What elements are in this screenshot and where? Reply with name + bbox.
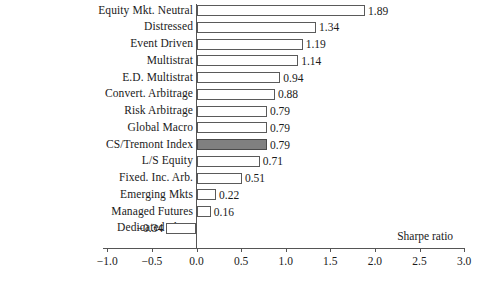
x-tick [420,248,421,252]
x-tick-label: 0.0 [189,255,203,267]
bar [197,39,303,50]
bar-value-label: 0.88 [278,89,298,101]
x-tick-label: −1.0 [97,255,118,267]
bar [197,89,275,100]
bar-value-label: 1.34 [319,22,339,34]
x-tick [375,248,376,252]
bar [197,5,366,16]
x-axis-line [103,248,464,249]
x-tick [464,248,465,252]
bar-value-label: 0.79 [270,123,290,135]
x-tick-label: 2.5 [412,255,426,267]
bar [166,223,196,234]
bar [197,206,211,217]
x-tick-label: 3.0 [457,255,471,267]
x-tick-label: 1.0 [279,255,293,267]
bar [197,72,281,83]
bar [197,22,317,33]
x-tick-label: 2.0 [368,255,382,267]
x-tick [107,248,108,252]
bar [197,156,260,167]
x-tick-label: 0.5 [234,255,248,267]
x-axis-title: Sharpe ratio [397,230,453,242]
bar [197,173,242,184]
x-tick-label: −0.5 [141,255,162,267]
bar-value-label: 1.19 [306,39,326,51]
bar-value-label: 0.94 [283,73,303,85]
bar-value-label: 0.22 [219,190,239,202]
sharpe-ratio-bar-chart: Equity Mkt. NeutralDistressedEvent Drive… [0,0,489,285]
bar [197,55,299,66]
bar-value-label: 0.79 [270,106,290,118]
bar-value-label: 0.79 [270,140,290,152]
bar [197,189,217,200]
bar-value-label: −0.34 [137,223,164,235]
bar-value-label: 0.16 [214,207,234,219]
bar-value-label: 1.14 [301,56,321,68]
bar [197,139,267,150]
x-tick-label: 1.5 [323,255,337,267]
x-tick [241,248,242,252]
bar [197,122,267,133]
plot-area: 1.891.341.191.140.940.880.790.790.790.71… [0,0,489,285]
bar-value-label: 0.51 [245,173,265,185]
x-tick [286,248,287,252]
bar [197,106,267,117]
bar-value-label: 1.89 [368,6,388,18]
x-tick [330,248,331,252]
bar-value-label: 0.71 [263,156,283,168]
x-tick [197,248,198,252]
x-tick [152,248,153,252]
